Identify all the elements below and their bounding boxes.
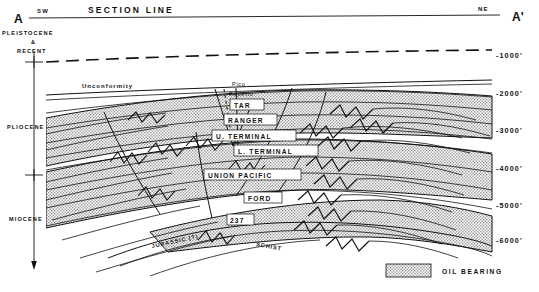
formation-label-u-terminal: U. TERMINAL (216, 133, 272, 140)
cross-section-figure: A A' SW NE SECTION LINE PLEISTOCENE & RE… (0, 0, 539, 292)
formation-label-tar-group: TAR (230, 99, 264, 110)
formation-label-ford-group: FORD (244, 192, 282, 203)
formation-label-237-group: 237 (227, 214, 254, 225)
formation-label-union-pacific-group: UNION PACIFIC (204, 169, 301, 180)
endpoint-label-a: A (14, 12, 23, 26)
formation-label-repetto: Repetto (229, 91, 254, 97)
formation-label-u-terminal-group: U. TERMINAL (212, 130, 296, 141)
depth-tick-6000: -6000' (496, 236, 523, 245)
era-label-pliocene: PLIOCENE (7, 124, 44, 130)
label-unconformity: Unconformity (82, 83, 133, 89)
depth-tick-2000: -2000' (496, 89, 523, 98)
formation-label-ford: FORD (248, 195, 271, 202)
endpoint-label-a-prime: A' (512, 10, 524, 24)
legend-swatch-oil-bearing (386, 264, 431, 277)
formation-label-union-pacific: UNION PACIFIC (208, 172, 273, 179)
legend-label-oil-bearing: OIL BEARING (442, 268, 503, 275)
era-label-ampersand: & (31, 39, 36, 45)
formation-label-l-terminal: L. TERMINAL (238, 148, 293, 155)
formation-label-ranger-group: RANGER (224, 114, 277, 125)
figure-title: SECTION LINE (88, 5, 174, 15)
direction-label-sw: SW (37, 8, 49, 14)
era-label-miocene: MIOCENE (9, 216, 43, 222)
depth-tick-5000: -5000' (496, 201, 523, 210)
formation-label-ranger: RANGER (228, 117, 264, 124)
depth-tick-4000: -4000' (496, 164, 523, 173)
era-label-pleistocene: PLEISTOCENE (2, 30, 53, 36)
formation-label-237: 237 (230, 217, 245, 224)
geologic-cross-section-svg: A A' SW NE SECTION LINE PLEISTOCENE & RE… (0, 0, 539, 292)
formation-label-tar: TAR (234, 102, 251, 109)
era-label-recent: RECENT (17, 48, 47, 54)
direction-label-ne: NE (478, 6, 489, 12)
formation-label-pico: Pico (232, 81, 246, 87)
depth-tick-1000: -1000' (496, 51, 523, 60)
formation-label-l-terminal-group: L. TERMINAL (234, 145, 318, 156)
depth-tick-3000: -3000' (496, 126, 523, 135)
